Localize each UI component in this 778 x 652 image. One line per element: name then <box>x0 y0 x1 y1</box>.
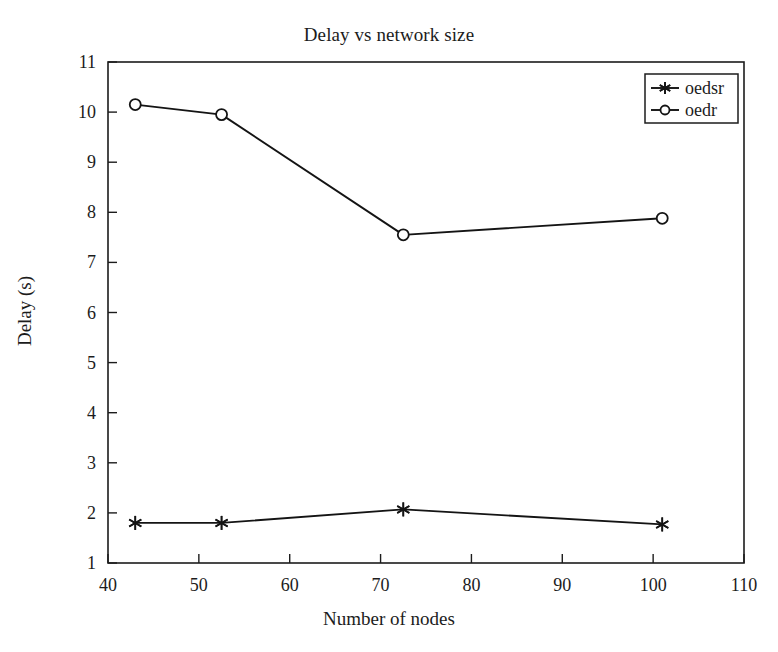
y-tick-label: 6 <box>87 303 96 323</box>
x-tick-label: 50 <box>190 575 208 595</box>
x-tick-label: 90 <box>553 575 571 595</box>
y-tick-label: 8 <box>87 202 96 222</box>
y-tick-label: 2 <box>87 503 96 523</box>
x-tick-label: 80 <box>462 575 480 595</box>
circle-marker-icon <box>661 106 670 115</box>
legend-label: oedsr <box>685 78 724 98</box>
x-tick-label: 110 <box>731 575 757 595</box>
circle-marker-icon <box>398 229 409 240</box>
y-tick-label: 9 <box>87 152 96 172</box>
x-tick-label: 40 <box>99 575 117 595</box>
circle-marker-icon <box>130 99 141 110</box>
data-series-layer <box>129 99 668 531</box>
y-tick-label: 10 <box>78 102 96 122</box>
series-oedr <box>130 99 668 240</box>
circle-marker-icon <box>216 109 227 120</box>
y-tick-label: 7 <box>87 252 96 272</box>
y-tick-label: 4 <box>87 403 96 423</box>
x-axis-ticks: 405060708090100110 <box>99 554 757 595</box>
y-axis-ticks: 1234567891011 <box>78 52 117 573</box>
x-tick-label: 70 <box>372 575 390 595</box>
chart-figure: Delay vs network size Delay (s) Number o… <box>0 0 778 652</box>
y-tick-label: 5 <box>87 353 96 373</box>
y-tick-label: 3 <box>87 453 96 473</box>
y-tick-label: 11 <box>79 52 96 72</box>
y-tick-label: 1 <box>87 553 96 573</box>
legend-label: oedr <box>685 100 717 120</box>
x-tick-label: 60 <box>281 575 299 595</box>
axis-frame <box>108 62 744 563</box>
series-oedsr <box>129 502 668 531</box>
series-line <box>135 105 662 235</box>
circle-marker-icon <box>657 213 668 224</box>
x-tick-label: 100 <box>640 575 667 595</box>
plot-area: 1234567891011 405060708090100110 oedsroe… <box>0 0 778 652</box>
chart-legend: oedsroedr <box>645 74 738 123</box>
